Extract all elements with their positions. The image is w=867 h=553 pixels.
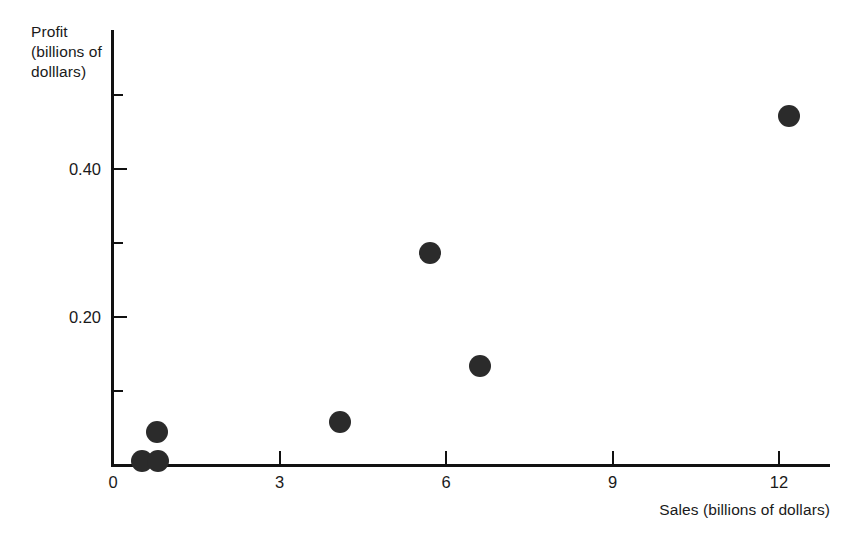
x-tick-mark xyxy=(279,451,281,465)
x-tick-mark xyxy=(612,451,614,465)
data-point-marker xyxy=(778,105,800,127)
data-point-marker xyxy=(419,242,441,264)
y-tick-label: 0.40 xyxy=(43,160,101,179)
data-point-marker xyxy=(146,421,168,443)
x-axis-line xyxy=(111,464,830,467)
x-tick-label: 6 xyxy=(426,473,466,492)
x-tick-mark xyxy=(445,451,447,465)
x-tick-label: 12 xyxy=(759,473,799,492)
x-tick-mark xyxy=(778,451,780,465)
data-point-marker xyxy=(147,450,169,472)
x-tick-label: 3 xyxy=(260,473,300,492)
y-axis-title: Profit (billions of dolllars) xyxy=(31,22,102,82)
y-tick-mark xyxy=(114,242,123,244)
x-tick-label: 9 xyxy=(593,473,633,492)
data-point-marker xyxy=(329,411,351,433)
y-tick-label: 0.20 xyxy=(43,308,101,327)
data-point-marker xyxy=(469,355,491,377)
y-tick-mark xyxy=(114,390,123,392)
y-tick-mark xyxy=(114,316,127,318)
y-tick-mark xyxy=(114,168,127,170)
x-tick-label: 0 xyxy=(93,473,133,492)
y-tick-mark xyxy=(114,94,123,96)
scatter-plot-figure: Profit (billions of dolllars) 0.400.20 0… xyxy=(0,0,867,553)
x-axis-title: Sales (billions of dollars) xyxy=(659,500,830,520)
